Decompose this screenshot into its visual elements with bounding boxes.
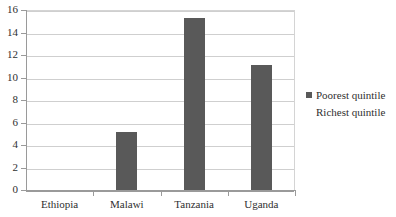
- legend-swatch: [306, 109, 312, 115]
- bar: [184, 18, 205, 190]
- bar: [251, 65, 272, 190]
- y-axis-tick-label: 12: [0, 49, 18, 60]
- y-axis-tick-label: 0: [0, 184, 18, 195]
- y-axis-tick-label: 4: [0, 139, 18, 150]
- y-axis-tick-label: 2: [0, 162, 18, 173]
- x-axis-tick: [228, 191, 229, 196]
- x-axis-tick: [93, 191, 94, 196]
- plot-area: [26, 10, 295, 190]
- legend-swatch: [306, 92, 312, 98]
- gridline: [26, 34, 294, 35]
- y-axis-tick: [21, 55, 26, 56]
- y-axis-tick-label: 6: [0, 117, 18, 128]
- y-axis-tick-label: 10: [0, 72, 18, 83]
- bar: [116, 132, 137, 191]
- y-axis-tick: [21, 145, 26, 146]
- bar-chart: 0246810121416 EthiopiaMalawiTanzaniaUgan…: [0, 0, 396, 217]
- y-axis-tick: [21, 123, 26, 124]
- x-axis-tick-label: Uganda: [228, 198, 295, 210]
- x-axis-tick-label: Tanzania: [161, 198, 228, 210]
- gridline: [26, 11, 294, 12]
- legend-item[interactable]: Richest quintile: [306, 103, 396, 120]
- y-axis-tick-label: 16: [0, 4, 18, 15]
- y-axis-tick: [21, 168, 26, 169]
- y-axis-tick: [21, 33, 26, 34]
- y-axis-tick: [21, 100, 26, 101]
- x-axis-tick-label: Ethiopia: [26, 198, 93, 210]
- y-axis-tick-label: 8: [0, 94, 18, 105]
- legend-label: Poorest quintile: [316, 89, 385, 101]
- legend-label: Richest quintile: [316, 106, 385, 118]
- y-axis-tick: [21, 78, 26, 79]
- x-axis-tick: [295, 191, 296, 196]
- y-axis-tick: [21, 10, 26, 11]
- x-axis-tick-label: Malawi: [93, 198, 160, 210]
- y-axis-tick-label: 14: [0, 27, 18, 38]
- legend-item[interactable]: Poorest quintile: [306, 86, 396, 103]
- gridline: [26, 56, 294, 57]
- chart-legend: Poorest quintileRichest quintile: [306, 86, 396, 120]
- y-axis-line: [26, 10, 27, 191]
- x-axis-tick: [161, 191, 162, 196]
